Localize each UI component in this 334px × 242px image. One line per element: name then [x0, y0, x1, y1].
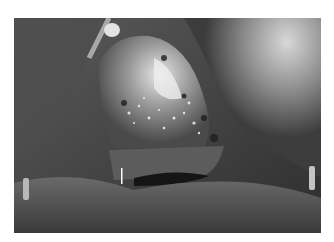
bright-spot — [104, 23, 120, 37]
surgical-photo — [14, 18, 321, 233]
metal-pin-right — [309, 166, 315, 190]
marker-line — [121, 168, 123, 184]
metal-pin-left — [23, 178, 29, 200]
surgical-scene — [14, 18, 321, 233]
